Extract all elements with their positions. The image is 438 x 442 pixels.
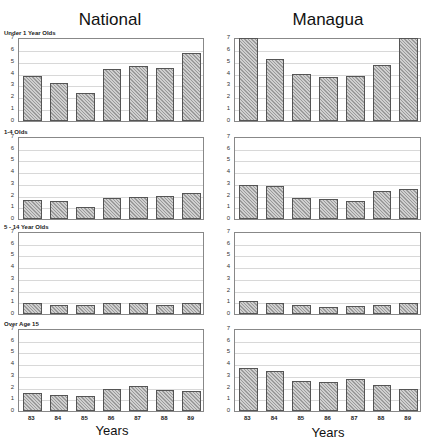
y-tick-label: 6 (4, 46, 14, 52)
y-tick-label: 1 (4, 203, 14, 209)
bar (266, 371, 285, 411)
plot-area (18, 329, 204, 412)
y-tick-label: 6 (4, 337, 14, 343)
gridline (19, 161, 203, 162)
y-tick-label: 5 (4, 348, 14, 354)
gridline (19, 150, 203, 151)
gridline (235, 173, 420, 174)
plot-area (234, 232, 421, 315)
y-tick-label: 7 (4, 228, 14, 234)
gridline (19, 256, 203, 257)
bar (239, 368, 258, 411)
bar (346, 379, 365, 411)
bar (239, 185, 258, 219)
gridline (235, 185, 420, 186)
bar (373, 305, 392, 314)
y-tick-label: 3 (220, 81, 230, 87)
bar (129, 66, 148, 121)
y-tick-label: 7 (220, 133, 230, 139)
bar (23, 200, 42, 219)
y-tick-label: 4 (220, 168, 230, 174)
bar (399, 389, 418, 411)
y-tick-label: 2 (220, 192, 230, 198)
y-tick-label: 4 (220, 70, 230, 76)
y-tick-label: 4 (220, 360, 230, 366)
y-tick-label: 4 (4, 263, 14, 269)
y-tick-label: 3 (220, 180, 230, 186)
y-tick-label: 3 (220, 275, 230, 281)
y-tick-label: 2 (220, 384, 230, 390)
bar (399, 303, 418, 314)
bar (182, 391, 201, 411)
gridline (19, 342, 203, 343)
bar (319, 382, 338, 411)
gridline (235, 353, 420, 354)
y-tick-label: 7 (4, 34, 14, 40)
y-tick-label: 0 (220, 310, 230, 316)
y-tick-label: 7 (220, 228, 230, 234)
gridline (235, 256, 420, 257)
x-tick-label: 83 (237, 415, 257, 421)
y-tick-label: 0 (4, 310, 14, 316)
y-tick-label: 4 (220, 263, 230, 269)
bar (103, 303, 122, 314)
y-tick-label: 5 (220, 58, 230, 64)
y-tick-label: 1 (4, 298, 14, 304)
y-tick-label: 6 (220, 46, 230, 52)
bar (50, 83, 69, 121)
gridline (235, 342, 420, 343)
bar (50, 201, 69, 219)
y-tick-label: 5 (4, 251, 14, 257)
gridline (235, 197, 420, 198)
y-tick-label: 7 (220, 34, 230, 40)
bar (239, 38, 258, 121)
bar (319, 77, 338, 121)
y-tick-label: 0 (220, 407, 230, 413)
x-tick-label: 89 (398, 415, 418, 421)
title-national: National (10, 10, 210, 30)
x-tick-label: 89 (181, 415, 201, 421)
bar (373, 65, 392, 121)
bar (156, 390, 175, 411)
gridline (235, 280, 420, 281)
plot-area (18, 232, 204, 315)
y-tick-label: 1 (220, 298, 230, 304)
x-axis-label-national: Years (82, 423, 142, 438)
bar (292, 74, 311, 121)
gridline (235, 63, 420, 64)
y-tick-label: 5 (220, 156, 230, 162)
gridline (235, 161, 420, 162)
gridline (19, 173, 203, 174)
bar (76, 207, 95, 219)
gridline (235, 303, 420, 304)
bar (23, 303, 42, 314)
gridline (19, 292, 203, 293)
bar (50, 395, 69, 411)
y-tick-label: 2 (220, 93, 230, 99)
y-tick-label: 6 (220, 337, 230, 343)
y-tick-label: 2 (220, 287, 230, 293)
bar (399, 38, 418, 121)
y-tick-label: 1 (220, 105, 230, 111)
gridline (19, 63, 203, 64)
bar (346, 306, 365, 314)
bar (103, 69, 122, 121)
y-tick-label: 2 (4, 93, 14, 99)
bar (156, 68, 175, 121)
bar (23, 393, 42, 411)
plot-area (234, 329, 421, 412)
bar (50, 305, 69, 314)
x-tick-label: 84 (48, 415, 68, 421)
bar (23, 76, 42, 121)
bar (373, 191, 392, 219)
y-tick-label: 6 (4, 240, 14, 246)
y-tick-label: 2 (4, 287, 14, 293)
y-tick-label: 3 (4, 180, 14, 186)
bar (266, 59, 285, 121)
y-tick-label: 7 (4, 133, 14, 139)
gridline (19, 268, 203, 269)
y-tick-label: 3 (4, 372, 14, 378)
y-tick-label: 1 (4, 105, 14, 111)
y-tick-label: 3 (4, 275, 14, 281)
gridline (235, 377, 420, 378)
